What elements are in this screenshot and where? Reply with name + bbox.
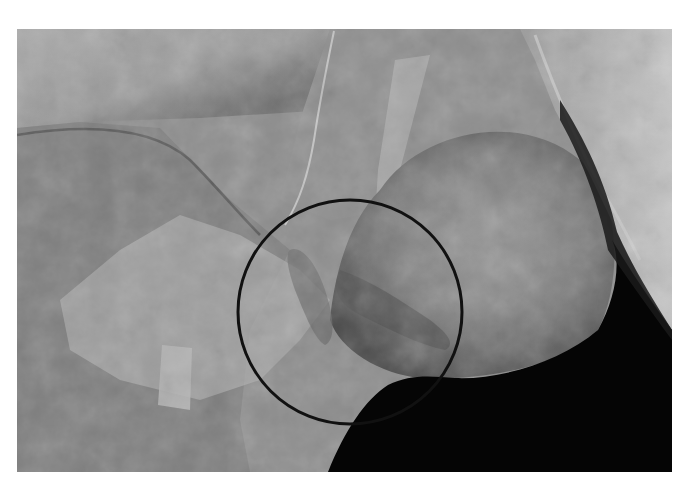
photo [17,29,672,472]
anatomical-photo-figure [0,0,689,485]
photo-canvas [0,0,689,485]
